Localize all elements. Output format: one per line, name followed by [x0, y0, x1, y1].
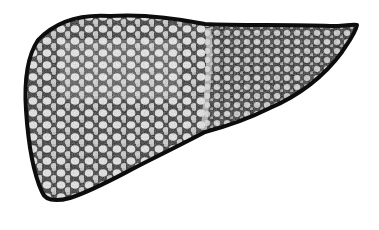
liver-drawing: [0, 0, 379, 230]
liver-body: [0, 0, 379, 230]
liver-illustration: [0, 0, 379, 230]
